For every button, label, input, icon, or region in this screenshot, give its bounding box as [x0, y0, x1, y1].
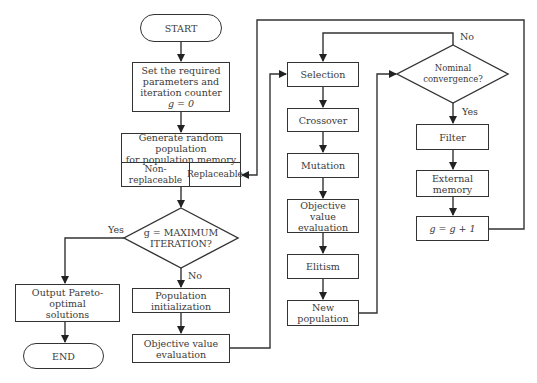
filter-label: Filter: [439, 132, 466, 143]
decision-nominal-convergence: Nominal convergence?: [405, 66, 501, 82]
objective-evaluation-box-1: Objective value evaluation: [132, 334, 230, 363]
no-label-convergence: No: [460, 31, 474, 42]
filter-box: Filter: [416, 124, 489, 150]
set-params-line-2: parameters and: [143, 76, 219, 87]
set-params-line-3: iteration counter: [140, 87, 222, 98]
new-population-box: New population: [287, 300, 359, 326]
generate-population-box: Generate random population for populatio…: [121, 133, 241, 187]
population-initialization-box: Population initialization: [132, 288, 230, 313]
selection-box: Selection: [287, 62, 359, 87]
non-replaceable-label: Non-replaceable: [122, 164, 189, 186]
increment-counter-box: g = g + 1: [416, 216, 489, 241]
non-replaceable-cell: Non-replaceable: [122, 163, 190, 186]
objective-evaluation-box-2: Objective value evaluation: [287, 199, 359, 233]
end-label: END: [52, 351, 75, 362]
mutation-label: Mutation: [301, 160, 345, 171]
elitism-label: Elitism: [306, 261, 340, 272]
edge-objeval-selection: [230, 74, 286, 348]
start-terminal: START: [140, 14, 222, 42]
new-population-label: New population: [288, 302, 358, 324]
external-memory-label: External memory: [417, 173, 488, 195]
obj-eval-1-line-2: evaluation: [156, 349, 206, 360]
increment-label: g = g + 1: [429, 223, 475, 234]
replaceable-label: Replaceable: [187, 169, 243, 180]
end-terminal: END: [23, 343, 104, 369]
edge-maxiter-yes-output: [65, 238, 124, 283]
yes-label-convergence: Yes: [462, 106, 478, 117]
convergence-label: Nominal convergence?: [405, 63, 501, 85]
elitism-box: Elitism: [287, 254, 359, 279]
crossover-box: Crossover: [287, 108, 359, 132]
external-memory-box: External memory: [416, 170, 489, 197]
pop-init-label: Population initialization: [133, 290, 229, 312]
obj-eval-2-line-2: evaluation: [298, 222, 348, 233]
selection-label: Selection: [301, 69, 346, 80]
yes-label-max-iteration: Yes: [108, 224, 124, 235]
generate-line-1: Generate random population: [122, 132, 240, 154]
edge-newpop-convergence: [359, 74, 396, 313]
obj-eval-1-line-1: Objective value: [144, 338, 218, 349]
set-params-line-1: Set the required: [141, 65, 220, 76]
replaceable-cell: Replaceable: [190, 163, 240, 186]
obj-eval-2-line-1: Objective value: [288, 200, 358, 222]
set-parameters-box: Set the required parameters and iteratio…: [132, 62, 230, 112]
mutation-box: Mutation: [287, 153, 359, 178]
set-params-formula: g = 0: [168, 98, 194, 109]
no-label-max-iteration: No: [188, 270, 202, 281]
crossover-label: Crossover: [299, 115, 348, 126]
output-line-2: solutions: [46, 309, 89, 320]
decision-max-iteration: g = MAXIMUM ITERATION?: [140, 224, 222, 252]
max-iter-line-1: g = MAXIMUM: [144, 227, 219, 238]
max-iter-line-2: ITERATION?: [150, 238, 212, 249]
start-label: START: [165, 23, 198, 34]
output-line-1: Output Pareto-optimal: [16, 287, 119, 309]
flowchart-canvas: START Set the required parameters and it…: [0, 0, 537, 383]
output-pareto-box: Output Pareto-optimal solutions: [15, 284, 120, 322]
